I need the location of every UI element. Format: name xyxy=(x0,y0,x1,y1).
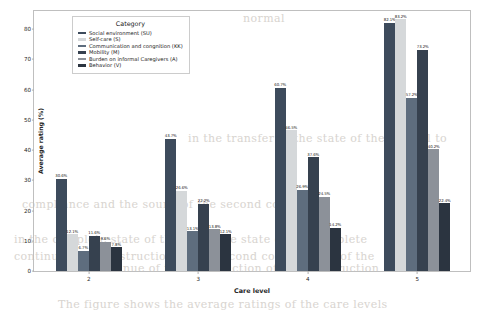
legend-item[interactable]: Self-care (S) xyxy=(78,36,183,43)
legend-item-label: Self-care (S) xyxy=(89,36,121,43)
legend-swatch-icon xyxy=(78,64,86,67)
y-axis-label: Average rating (%) xyxy=(37,108,44,174)
figure-canvas: normalin the transfer of the state of th… xyxy=(0,0,481,310)
bar-value-label: 83.2% xyxy=(395,14,407,19)
bar: 12.1% xyxy=(67,234,78,271)
bar: 7.8% xyxy=(111,247,122,271)
bar: 60.7% xyxy=(275,88,286,272)
bar-value-label: 26.6% xyxy=(176,185,188,190)
bar: 13.8% xyxy=(209,229,220,271)
x-tick-mark xyxy=(198,271,199,274)
bar: 22.2% xyxy=(198,204,209,271)
plot-axes: 30.6%12.1%6.7%11.6%9.6%7.8%43.7%26.6%13.… xyxy=(33,10,471,272)
legend-item-label: Communication and congnition (KK) xyxy=(89,43,183,50)
legend-item-label: Social environment (SU) xyxy=(89,30,152,37)
bar-value-label: 40.2% xyxy=(428,144,440,149)
bar-value-label: 12.1% xyxy=(220,229,232,234)
y-tick-mark xyxy=(32,89,35,90)
bar-value-label: 11.6% xyxy=(88,230,100,235)
bar-value-label: 24.5% xyxy=(318,191,330,196)
x-tick-mark xyxy=(88,271,89,274)
bar-value-label: 7.8% xyxy=(112,242,121,247)
y-tick-label: 60 xyxy=(18,87,31,93)
y-tick-mark xyxy=(32,59,35,60)
bar-value-label: 12.1% xyxy=(66,229,78,234)
bar-value-label: 13.1% xyxy=(187,226,199,231)
bar: 6.7% xyxy=(78,251,89,271)
x-tick-label: 5 xyxy=(415,276,419,282)
bar-value-label: 26.9% xyxy=(296,184,308,189)
x-tick-mark xyxy=(307,271,308,274)
y-tick-label: 20 xyxy=(18,208,31,214)
bar: 46.5% xyxy=(286,130,297,271)
x-tick-label: 4 xyxy=(306,276,310,282)
y-tick-mark xyxy=(32,119,35,120)
legend-item[interactable]: Burden on informal Caregivers (A) xyxy=(78,56,183,63)
bar: 43.7% xyxy=(165,139,176,271)
legend-swatch-icon xyxy=(78,38,86,41)
y-tick-mark xyxy=(32,180,35,181)
legend-swatch-icon xyxy=(78,58,86,61)
bar-value-label: 9.6% xyxy=(101,236,110,241)
y-tick-mark xyxy=(32,210,35,211)
legend-entries: Social environment (SU)Self-care (S)Comm… xyxy=(78,30,183,70)
x-tick-label: 3 xyxy=(196,276,200,282)
bar-value-label: 60.7% xyxy=(274,82,286,87)
bar-value-label: 37.6% xyxy=(307,152,319,157)
legend-item-label: Behavior (V) xyxy=(89,62,121,69)
bar-value-label: 14.2% xyxy=(329,222,341,227)
legend-swatch-icon xyxy=(78,51,86,54)
legend-title: Category xyxy=(78,20,183,28)
y-tick-mark xyxy=(32,271,35,272)
y-tick-label: 50 xyxy=(18,117,31,123)
legend: Category Social environment (SU)Self-car… xyxy=(72,16,190,74)
bar: 14.2% xyxy=(330,228,341,271)
bar-value-label: 57.2% xyxy=(406,92,418,97)
bar-value-label: 46.5% xyxy=(285,125,297,130)
bar: 22.4% xyxy=(439,203,450,271)
bar: 11.6% xyxy=(89,236,100,271)
background-bleed-line: The figure shows the average ratings of … xyxy=(58,298,388,310)
y-tick-mark xyxy=(32,240,35,241)
bar-value-label: 73.2% xyxy=(417,44,429,49)
bar-value-label: 22.4% xyxy=(439,198,451,203)
legend-item-label: Burden on informal Caregivers (A) xyxy=(89,56,178,63)
y-tick-label: 10 xyxy=(18,238,31,244)
y-tick-mark xyxy=(32,150,35,151)
x-tick-label: 2 xyxy=(87,276,91,282)
y-tick-label: 0 xyxy=(18,268,31,274)
bar-value-label: 22.2% xyxy=(198,198,210,203)
legend-item[interactable]: Behavior (V) xyxy=(78,62,183,69)
legend-item-label: Mobility (M) xyxy=(89,49,120,56)
y-tick-mark xyxy=(32,29,35,30)
legend-item[interactable]: Social environment (SU) xyxy=(78,30,183,37)
bar-value-label: 30.6% xyxy=(55,173,67,178)
x-axis-label: Care level xyxy=(234,287,270,295)
bar: 83.2% xyxy=(395,19,406,271)
y-tick-label: 70 xyxy=(18,56,31,62)
legend-item[interactable]: Mobility (M) xyxy=(78,49,183,56)
legend-item[interactable]: Communication and congnition (KK) xyxy=(78,43,183,50)
bar: 13.1% xyxy=(187,231,198,271)
bar-value-label: 43.7% xyxy=(165,133,177,138)
x-tick-mark xyxy=(417,271,418,274)
y-tick-label: 40 xyxy=(18,147,31,153)
bar: 82.1% xyxy=(384,23,395,271)
bar-value-label: 6.7% xyxy=(79,245,88,250)
bar: 24.5% xyxy=(319,197,330,271)
bar: 40.2% xyxy=(428,149,439,271)
legend-swatch-icon xyxy=(78,32,86,35)
bar: 26.9% xyxy=(297,190,308,271)
bar: 57.2% xyxy=(406,98,417,271)
bar: 37.6% xyxy=(308,157,319,271)
bar: 26.6% xyxy=(176,191,187,271)
bar: 9.6% xyxy=(100,242,111,271)
y-tick-label: 80 xyxy=(18,26,31,32)
bar: 12.1% xyxy=(220,234,231,271)
bar: 30.6% xyxy=(56,179,67,272)
legend-swatch-icon xyxy=(78,45,86,48)
bar: 73.2% xyxy=(417,50,428,271)
y-tick-label: 30 xyxy=(18,177,31,183)
